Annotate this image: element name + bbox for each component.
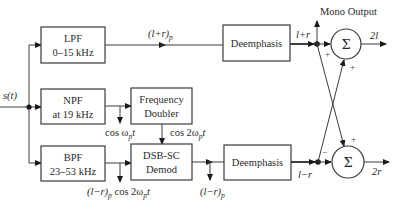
deemphasis-top-output-label: l+r [296,29,311,40]
deemphasis-bottom-output-label: l−r [298,169,313,180]
sign-bottom-top: + [351,134,356,144]
doubler-line1: Frequency [139,94,184,105]
deemphasis-bottom-label: Deemphasis [232,157,283,168]
npf-output-label: cos ωpt [105,127,136,141]
bpf-output-label: (l−r)p cos 2ωpt [87,186,151,200]
npf-frequency: at 19 kHz [53,109,94,120]
deemphasis-bottom-block: Deemphasis [224,145,291,180]
dsb-sc-demod-block: DSB-SC Demod [131,144,192,180]
doubler-output-label: cos 2ωpt [170,127,207,141]
deemphasis-top-block: Deemphasis [223,25,290,61]
frequency-doubler-block: Frequency Doubler [131,88,192,124]
npf-block: NPF at 19 kHz [41,89,105,124]
sigma-bottom-icon: Σ [343,155,352,170]
sigma-top-icon: Σ [341,37,350,52]
npf-title: NPF [63,95,82,106]
lpf-range: 0–15 kHz [52,47,93,58]
fm-stereo-demodulator-diagram: s(t) LPF 0–15 kHz (l+r)p NPF at 19 kHz c… [0,0,397,209]
lpf-title: LPF [64,33,82,44]
demod-line1: DSB-SC [143,150,180,161]
bpf-block: BPF 23–53 kHz [41,146,105,181]
demod-line2: Demod [146,164,178,175]
deemphasis-top-label: Deemphasis [231,38,282,49]
lpf-output-label: (l+r)p [148,28,173,42]
doubler-line2: Doubler [144,108,179,119]
input-signal-label: s(t) [3,90,18,102]
input-junction-dot [26,104,31,109]
summer-bottom: Σ [332,146,364,178]
summer-top: Σ [331,29,361,59]
summer-bottom-output-label: 2r [372,166,382,177]
sign-top-left: + [325,49,330,59]
input-wiring [0,45,41,163]
summer-top-output-label: 2l [370,30,378,41]
lpf-block: LPF 0–15 kHz [41,27,105,63]
bpf-title: BPF [64,152,83,163]
bpf-range: 23–53 kHz [50,166,97,177]
sign-top-bottom: + [350,62,355,72]
sign-bottom-left: − [322,147,327,157]
mono-output-label: Mono Output [320,6,377,17]
demod-output-label: (l−r)p [200,186,225,200]
